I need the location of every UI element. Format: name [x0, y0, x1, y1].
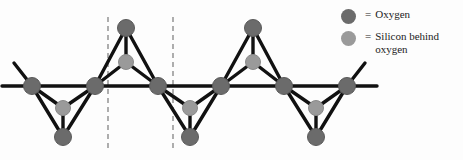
bond-network	[2, 28, 377, 137]
silicon-atom	[309, 101, 324, 116]
legend-equals-sign: =	[365, 30, 371, 43]
legend-equals-sign: =	[365, 8, 371, 21]
oxygen-atom	[182, 129, 199, 146]
oxygen-atom	[276, 78, 293, 95]
oxygen-atom	[245, 20, 262, 37]
oxygen-atom	[213, 78, 230, 95]
silicon-swatch-icon	[341, 31, 356, 46]
oxygen-atom	[118, 20, 135, 37]
legend: = Oxygen = Silicon behind oxygen	[341, 8, 461, 62]
figure-root: = Oxygen = Silicon behind oxygen	[0, 0, 463, 160]
oxygen-atom	[308, 129, 325, 146]
legend-label-oxygen: Oxygen	[375, 8, 410, 21]
legend-item-silicon: = Silicon behind oxygen	[341, 30, 461, 56]
oxygen-atom	[339, 78, 356, 95]
legend-label-silicon: Silicon behind oxygen	[375, 30, 453, 56]
oxygen-atom	[24, 78, 41, 95]
silicon-atom	[56, 101, 71, 116]
silicon-atom	[119, 55, 134, 70]
oxygen-atom	[55, 129, 72, 146]
legend-item-oxygen: = Oxygen	[341, 8, 461, 24]
oxygen-atom	[150, 78, 167, 95]
oxygen-atom	[87, 78, 104, 95]
oxygen-swatch-icon	[341, 9, 356, 24]
silicon-atom	[246, 55, 261, 70]
silicon-atom	[183, 101, 198, 116]
